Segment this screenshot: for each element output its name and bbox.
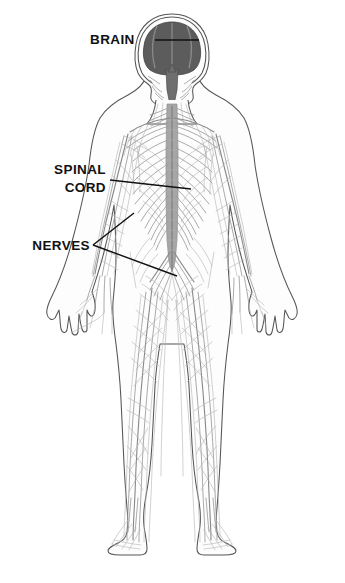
label-nerves: NERVES — [32, 238, 90, 253]
label-spinal-cord-line2: CORD — [65, 180, 106, 195]
label-brain: BRAIN — [90, 32, 135, 47]
anatomy-illustration: BRAIN SPINAL CORD NERVES — [0, 0, 345, 583]
nervous-system-diagram: BRAIN SPINAL CORD NERVES — [0, 0, 345, 583]
label-spinal-cord-line1: SPINAL — [54, 162, 106, 177]
